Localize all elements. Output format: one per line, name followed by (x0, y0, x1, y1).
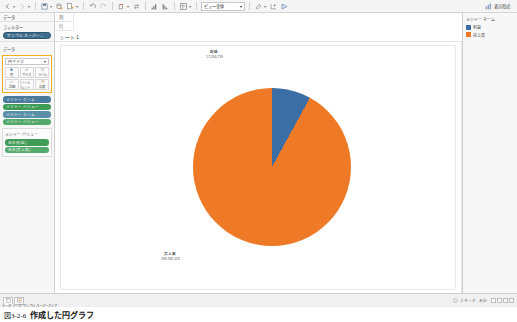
legend-label-profit: 利益 (473, 24, 481, 30)
swap-rows-columns-button[interactable] (132, 2, 141, 11)
show-me-button[interactable]: 表示形式 (485, 3, 514, 10)
back-caret-icon[interactable]: ▾ (13, 4, 15, 9)
worksheet-area: 列 行 シート 1 利益 17,294,719 売上高 199,782,113 (55, 13, 462, 293)
pie-label-sales: 売上高 199,782,113 (161, 252, 180, 261)
measure-values-title: メジャー バリュー (5, 131, 49, 138)
marks-detail-button[interactable]: 詳細 (5, 79, 19, 90)
toolbar-divider-3 (112, 2, 113, 10)
forward-caret-icon[interactable]: ▾ (28, 4, 30, 9)
data-pane-header: データ (0, 13, 54, 22)
marks-label-label: ラベル (38, 72, 47, 77)
highlight-caret-icon[interactable]: ▾ (264, 4, 266, 9)
marks-angle-label: 角度 (39, 84, 45, 89)
color-icon (9, 68, 14, 72)
columns-shelf-label: 列 (55, 14, 73, 20)
marks-buttons-grid: 色 サイズ ラベル 詳細 ツール ヒント (5, 67, 49, 91)
clear-caret-icon[interactable]: ▾ (127, 4, 129, 9)
marks-color-button[interactable]: 色 (5, 67, 19, 78)
marks-card: 円グラフ ▾ 色 サイズ ラベル 詳細 (2, 55, 52, 94)
clear-sheet-button[interactable] (117, 2, 126, 11)
sheet-title: シート 1 (55, 31, 462, 42)
rows-shelf-well[interactable] (73, 22, 462, 31)
group-button[interactable] (269, 2, 278, 11)
shelf-pill-3[interactable]: メジャー バリュー (3, 119, 51, 126)
legend-title: メジャー ネーム (466, 16, 514, 22)
view-canvas[interactable]: 利益 17,294,719 売上高 199,782,113 (55, 42, 462, 293)
columns-shelf-well[interactable] (73, 13, 462, 22)
save-caret-icon[interactable]: ▾ (50, 4, 52, 9)
marks-color-label: 色 (10, 72, 13, 77)
sort-descending-button[interactable] (161, 2, 170, 11)
toolbar-divider-7 (249, 2, 250, 10)
figure-caption-text: 作成した円グラフ (30, 309, 94, 320)
marks-tooltip-label: ツール ヒント (21, 80, 33, 90)
legend-pane: メジャー ネーム 利益 売上高 (462, 13, 517, 293)
legend-item-sales[interactable]: 売上高 (466, 32, 514, 38)
label-icon (40, 68, 45, 72)
view-mode-button-3[interactable] (503, 298, 508, 303)
measure-value-pill-sales[interactable]: 合計(売上高) (5, 147, 49, 154)
marks-count-icon (453, 298, 458, 303)
view-frame: 利益 17,294,719 売上高 199,782,113 (60, 45, 456, 290)
marks-size-button[interactable]: サイズ (20, 67, 34, 78)
view-mode-buttons (491, 298, 514, 303)
highlight-button[interactable] (254, 2, 263, 11)
forward-button[interactable] (18, 2, 27, 11)
marks-detail-label: 詳細 (9, 84, 15, 89)
marks-label-button[interactable]: ラベル (35, 67, 49, 78)
new-worksheet-caret-icon[interactable]: ▾ (76, 4, 78, 9)
tableau-window: ▾ ▾ ▾ ▾ ▾ (0, 0, 517, 322)
pie-label-sales-value: 199,782,113 (161, 257, 180, 262)
marks-count-label: 2 マーク (461, 298, 476, 303)
view-mode-button-4[interactable] (509, 298, 514, 303)
status-bar: データ ソース: サンプル スーパーストア 2 マーク 合計: (0, 293, 517, 307)
toolbar-divider-5 (174, 2, 175, 10)
measure-values-card: メジャー バリュー 合計(利益) 合計(売上高) (2, 128, 52, 157)
new-datasource-button[interactable] (55, 2, 64, 11)
redo-button[interactable] (99, 2, 108, 11)
sum-label: 合計: (479, 298, 488, 303)
totals-button[interactable] (179, 2, 188, 11)
show-me-label: 表示形式 (494, 3, 510, 9)
size-icon (24, 68, 29, 72)
legend-item-profit[interactable]: 利益 (466, 24, 514, 30)
angle-icon (40, 80, 45, 84)
data-pane: データ フィルター サンプル スーパー… データ 円グラフ ▾ 色 サイズ (0, 13, 55, 293)
marks-size-label: サイズ (22, 72, 31, 77)
marks-shelf-pills: メジャー ネーム メジャー バリュー メジャー ネーム メジャー バリュー (0, 96, 54, 125)
figure-number: 図3-2-6 (4, 310, 26, 320)
save-button[interactable] (40, 2, 49, 11)
fit-dropdown[interactable]: ビュー全体 ▾ (201, 2, 245, 11)
toolbar-divider-2 (83, 2, 84, 10)
presentation-mode-button[interactable] (280, 2, 289, 11)
mark-type-value: 円グラフ (8, 59, 24, 64)
legend-label-sales: 売上高 (473, 32, 485, 38)
marks-angle-button[interactable]: 角度 (35, 79, 49, 90)
rows-shelf[interactable]: 行 (55, 22, 462, 31)
marks-tooltip-button[interactable]: ツール ヒント (20, 79, 34, 90)
toolbar-divider-1 (35, 2, 36, 10)
shelf-pill-1[interactable]: メジャー バリュー (3, 104, 51, 111)
sort-ascending-button[interactable] (150, 2, 159, 11)
totals-caret-icon[interactable]: ▾ (189, 4, 191, 9)
pie-slices[interactable] (193, 88, 351, 246)
pie-chart[interactable] (193, 88, 351, 246)
pane-divider-1 (0, 41, 54, 42)
toolbar-divider-6 (196, 2, 197, 10)
detail-icon (9, 80, 14, 84)
back-button[interactable] (3, 2, 12, 11)
fit-dropdown-caret-icon: ▾ (240, 4, 242, 9)
toolbar: ▾ ▾ ▾ ▾ ▾ (0, 0, 517, 13)
undo-button[interactable] (88, 2, 97, 11)
view-mode-button-1[interactable] (491, 298, 496, 303)
shelf-pill-0[interactable]: メジャー ネーム (3, 96, 51, 103)
figure-caption: 図3-2-6 作成した円グラフ (0, 307, 517, 322)
status-right-group: 2 マーク 合計: (453, 298, 517, 303)
datasource-pill[interactable]: サンプル スーパー… (3, 32, 51, 39)
legend-swatch-profit-icon (466, 25, 471, 30)
new-worksheet-button[interactable] (66, 2, 75, 11)
measure-value-pill-profit[interactable]: 合計(利益) (5, 139, 49, 146)
view-mode-button-2[interactable] (497, 298, 502, 303)
mark-type-dropdown[interactable]: 円グラフ ▾ (5, 58, 49, 65)
shelf-pill-2[interactable]: メジャー ネーム (3, 111, 51, 118)
